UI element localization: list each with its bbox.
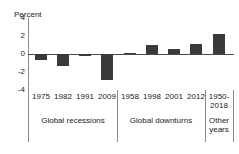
group-label-global-recessions: Global recessions bbox=[41, 116, 105, 125]
x-tick-2009: 2009 bbox=[98, 92, 116, 101]
chart-figure: Percent 4 2 0 -2 -4 1975 1982 1991 2009 … bbox=[0, 0, 239, 154]
bar-1958 bbox=[124, 53, 136, 54]
bar-2001 bbox=[168, 49, 180, 54]
axis-border-left bbox=[28, 90, 29, 142]
category-axis-labels: 1975 1982 1991 2009 1958 1998 2001 2012 … bbox=[28, 90, 234, 142]
y-axis-tick-neg2: -2 bbox=[18, 68, 25, 76]
x-tick-1991: 1991 bbox=[76, 92, 94, 101]
plot-area: 4 2 0 -2 -4 bbox=[28, 18, 234, 90]
x-tick-2012: 2012 bbox=[187, 92, 205, 101]
group-label-other-years: Other years bbox=[206, 116, 232, 134]
bar-1982 bbox=[57, 54, 69, 66]
group-label-global-downturns: Global downturns bbox=[130, 116, 192, 125]
x-tick-1950-2018: 1950-2018 bbox=[207, 92, 231, 110]
x-tick-1998: 1998 bbox=[143, 92, 161, 101]
group-separator-1 bbox=[117, 90, 118, 142]
x-tick-1982: 1982 bbox=[54, 92, 72, 101]
y-axis-tick-4: 4 bbox=[21, 14, 25, 22]
y-axis-tick-2: 2 bbox=[21, 32, 25, 40]
y-axis-tick-0: 0 bbox=[21, 50, 25, 58]
x-tick-1958: 1958 bbox=[121, 92, 139, 101]
x-tick-2001: 2001 bbox=[165, 92, 183, 101]
bar-2012 bbox=[190, 44, 202, 54]
bar-1950-2018 bbox=[213, 34, 225, 54]
bar-1991 bbox=[79, 54, 91, 56]
x-tick-1975: 1975 bbox=[32, 92, 50, 101]
bar-1998 bbox=[146, 45, 158, 54]
axis-border-right bbox=[233, 90, 234, 142]
y-axis-tick-neg4: -4 bbox=[18, 86, 25, 94]
bar-2009 bbox=[101, 54, 113, 80]
bar-1975 bbox=[35, 54, 47, 60]
